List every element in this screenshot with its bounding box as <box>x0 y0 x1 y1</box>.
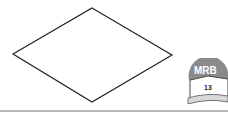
mrb-logo: MRB 13 <box>186 58 228 104</box>
rhombus-shape <box>13 8 172 102</box>
logo-number: 13 <box>204 84 212 91</box>
logo-text: MRB <box>194 65 217 76</box>
divider-rule <box>0 110 228 112</box>
